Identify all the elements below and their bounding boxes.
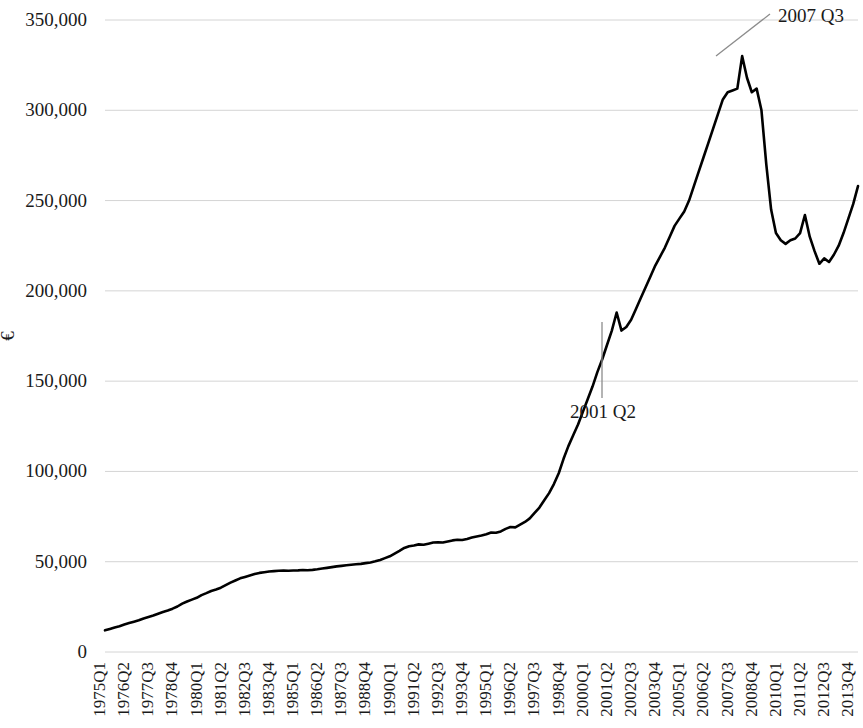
x-axis-tick-label: 2013Q4 <box>838 662 857 717</box>
x-axis-tick-label: 1993Q4 <box>452 662 471 717</box>
x-axis-tick-label: 1976Q2 <box>114 662 133 717</box>
x-axis-tick-label: 2006Q2 <box>693 662 712 717</box>
x-axis-tick-label: 2008Q4 <box>742 662 761 717</box>
annotations-group: 2001 Q22007 Q3 <box>570 5 844 422</box>
chart-container: 050,000100,000150,000200,000250,000300,0… <box>0 0 863 728</box>
x-axis-tick-label: 1975Q1 <box>90 662 109 717</box>
y-axis-tick-labels: 050,000100,000150,000200,000250,000300,0… <box>25 9 87 662</box>
gridlines <box>105 20 858 652</box>
x-axis-tick-label: 1986Q2 <box>307 662 326 717</box>
y-axis-tick-label: 100,000 <box>25 460 87 481</box>
y-axis-tick-label: 300,000 <box>25 99 87 120</box>
x-axis-tick-label: 2007Q3 <box>718 662 737 717</box>
x-axis-tick-label: 1981Q2 <box>211 662 230 717</box>
x-axis-tick-label: 1988Q4 <box>355 662 374 717</box>
x-axis-tick-label: 2012Q3 <box>814 662 833 717</box>
x-axis-tick-label: 2005Q1 <box>669 662 688 717</box>
x-axis-tick-label: 1990Q1 <box>380 662 399 717</box>
y-axis-tick-label: 50,000 <box>35 551 87 572</box>
x-axis-tick-label: 1998Q4 <box>549 662 568 717</box>
x-axis-tick-label: 2003Q4 <box>645 662 664 717</box>
x-axis-tick-label: 1983Q4 <box>259 662 278 717</box>
x-axis-tick-labels: 1975Q11976Q21977Q31978Q41980Q11981Q21982… <box>90 662 857 717</box>
line-chart: 050,000100,000150,000200,000250,000300,0… <box>0 0 863 728</box>
x-axis-tick-label: 2001Q2 <box>597 662 616 717</box>
annotation-label: 2007 Q3 <box>778 5 844 26</box>
x-axis-tick-label: 1987Q3 <box>331 662 350 717</box>
x-axis-tick-label: 1978Q4 <box>162 662 181 717</box>
x-axis-tick-label: 1980Q1 <box>187 662 206 717</box>
x-axis-tick-label: 1991Q2 <box>404 662 423 717</box>
x-axis-tick-label: 2000Q1 <box>573 662 592 717</box>
x-axis-tick-label: 2010Q1 <box>766 662 785 717</box>
x-axis-tick-label: 1995Q1 <box>476 662 495 717</box>
y-axis-tick-label: 350,000 <box>25 9 87 30</box>
x-axis-tick-label: 2011Q2 <box>790 662 809 716</box>
y-axis-tick-label: 200,000 <box>25 280 87 301</box>
x-axis-tick-label: 1992Q3 <box>428 662 447 717</box>
x-axis-tick-label: 1977Q3 <box>138 662 157 717</box>
x-axis-tick-label: 1985Q1 <box>283 662 302 717</box>
y-axis-tick-label: 0 <box>78 641 88 662</box>
y-axis-title: € <box>0 331 18 341</box>
x-axis-tick-label: 1982Q3 <box>235 662 254 717</box>
x-axis-tick-label: 1996Q2 <box>500 662 519 717</box>
annotation-label: 2001 Q2 <box>570 401 636 422</box>
y-axis-tick-label: 250,000 <box>25 190 87 211</box>
x-axis-tick-label: 1997Q3 <box>524 662 543 717</box>
y-axis-tick-label: 150,000 <box>25 370 87 391</box>
x-axis-tick-label: 2002Q3 <box>621 662 640 717</box>
data-series-line <box>105 56 858 630</box>
